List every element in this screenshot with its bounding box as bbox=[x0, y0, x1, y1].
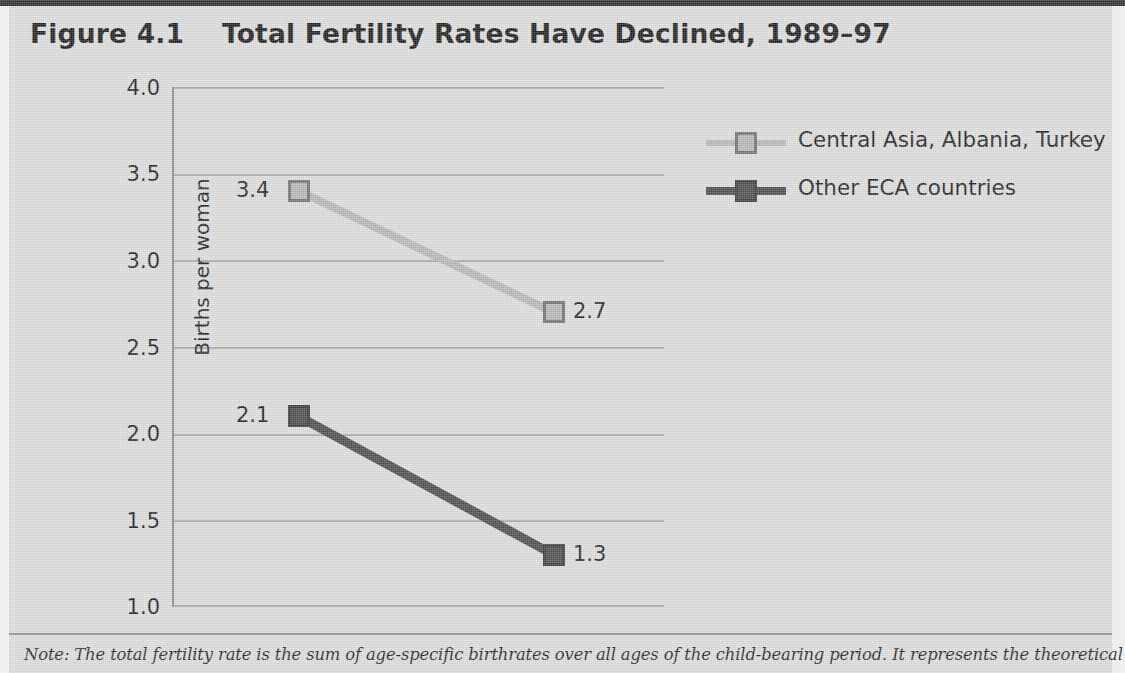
gridline-2-0 bbox=[174, 434, 664, 436]
note-divider bbox=[9, 633, 1112, 635]
series-line-central-asia bbox=[297, 187, 555, 316]
legend-item-other-eca[interactable]: Other ECA countries bbox=[706, 170, 1106, 218]
data-label-other-eca-1989: 2.1 bbox=[236, 403, 269, 427]
y-tick-2-5: 2.5 bbox=[88, 336, 160, 360]
gridline-3-0 bbox=[174, 260, 664, 262]
gridline-4-0 bbox=[174, 87, 664, 89]
legend-marker-light bbox=[735, 132, 757, 154]
data-label-other-eca-1997: 1.3 bbox=[573, 542, 606, 566]
figure-container: Figure 4.1 Total Fertility Rates Have De… bbox=[0, 0, 1125, 673]
y-tick-4-0: 4.0 bbox=[88, 76, 160, 100]
y-axis-title: Births per woman bbox=[190, 157, 214, 377]
data-point-other-eca-1997[interactable] bbox=[543, 544, 565, 566]
data-point-central-asia-1997[interactable] bbox=[543, 301, 565, 323]
legend-label-central-asia: Central Asia, Albania, Turkey bbox=[798, 127, 1106, 152]
data-label-central-asia-1997: 2.7 bbox=[573, 299, 606, 323]
data-point-other-eca-1989[interactable] bbox=[288, 405, 310, 427]
legend-swatch-light bbox=[706, 132, 786, 154]
right-page-margin bbox=[1112, 6, 1125, 673]
figure-title: Figure 4.1 Total Fertility Rates Have De… bbox=[30, 18, 891, 49]
figure-note: Note: The total fertility rate is the su… bbox=[24, 645, 1109, 664]
legend-swatch-dark bbox=[706, 180, 786, 202]
y-tick-3-0: 3.0 bbox=[88, 249, 160, 273]
y-tick-2-0: 2.0 bbox=[88, 422, 160, 446]
y-tick-1-5: 1.5 bbox=[88, 509, 160, 533]
chart-legend: Central Asia, Albania, Turkey Other ECA … bbox=[706, 122, 1106, 218]
gridline-1-5 bbox=[174, 520, 664, 522]
data-label-central-asia-1989: 3.4 bbox=[236, 178, 269, 202]
gridline-3-5 bbox=[174, 174, 664, 176]
y-tick-1-0: 1.0 bbox=[88, 595, 160, 619]
top-rule-divider bbox=[0, 0, 1125, 6]
gridline-1-0 bbox=[174, 605, 664, 607]
plot-area: Births per woman 3.4 2.7 2.1 1.3 1989 19… bbox=[172, 87, 664, 607]
left-page-margin bbox=[0, 6, 9, 673]
y-tick-3-5: 3.5 bbox=[88, 162, 160, 186]
legend-label-other-eca: Other ECA countries bbox=[798, 175, 1016, 200]
legend-marker-dark bbox=[735, 180, 757, 202]
data-point-central-asia-1989[interactable] bbox=[288, 180, 310, 202]
legend-item-central-asia[interactable]: Central Asia, Albania, Turkey bbox=[706, 122, 1106, 170]
gridline-2-5 bbox=[174, 347, 664, 349]
